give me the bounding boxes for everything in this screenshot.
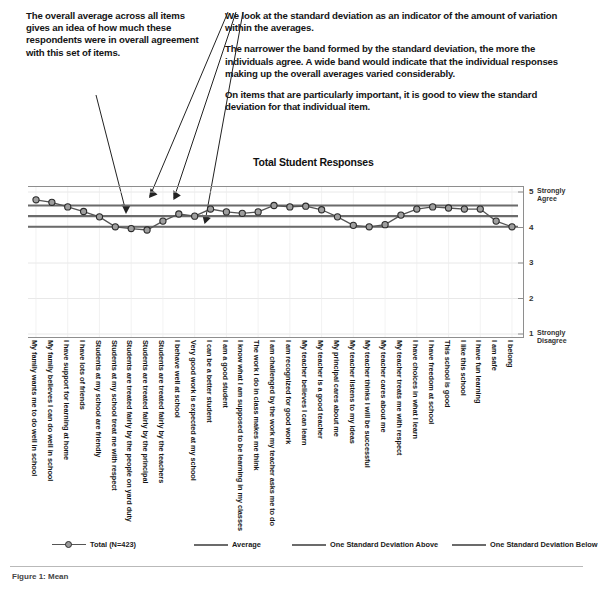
annotation-sd-paragraph-1: We look at the standard deviation as an …: [225, 10, 577, 34]
y-tick-label-2: 2: [529, 294, 533, 303]
x-axis-label: I can be a better student: [205, 340, 214, 423]
x-axis-label: I belong: [506, 340, 515, 368]
annotation-sd-paragraph-2: The narrower the band formed by the stan…: [225, 43, 577, 80]
chart-svg: [28, 186, 524, 338]
x-axis-label: I am challenged by the work my teacher a…: [268, 340, 277, 526]
y-axis-anchor-bottom: StronglyDisagree: [537, 329, 589, 344]
x-axis-label: My teacher listens to my ideas: [348, 340, 357, 444]
legend-label: Total (N=423): [90, 540, 136, 549]
x-axis-label: My family believes I can do well in scho…: [46, 340, 55, 481]
chart-title: Total Student Responses: [253, 156, 374, 168]
x-axis-label: My teacher treats me with respect: [395, 340, 404, 455]
legend-swatch: [194, 540, 228, 549]
legend-item: One Standard Deviation Below: [452, 540, 598, 549]
x-axis-label: This school is good: [443, 340, 452, 408]
x-axis-label: I behave well at school: [173, 340, 182, 418]
chart-legend: Total (N=423)AverageOne Standard Deviati…: [52, 540, 552, 556]
y-tick-label-1: 1: [529, 329, 533, 338]
x-axis-label: I have choices in what I learn: [411, 340, 420, 439]
x-axis-label: I have freedom at school: [427, 340, 436, 424]
x-axis-label: I am a good student: [221, 340, 230, 408]
x-axis-label: I have lots of friends: [78, 340, 87, 410]
x-axis-label: My teacher believes I can learn: [300, 340, 309, 445]
y-tick-label-3: 3: [529, 258, 533, 267]
x-axis-label: My teacher cares about me: [379, 340, 388, 432]
legend-label: One Standard Deviation Above: [330, 540, 438, 549]
y-tick-label-5: 5: [529, 187, 533, 196]
legend-item: Total (N=423): [52, 540, 136, 549]
page-divider: [10, 566, 583, 567]
annotation-sd-paragraph-3: On items that are particularly important…: [225, 89, 577, 113]
x-axis-label: Very good work is expected at my school: [189, 340, 198, 481]
y-axis-anchor-top: StronglyAgree: [537, 187, 589, 202]
legend-swatch: [292, 540, 326, 549]
x-axis-label: My family wants me to do well in school: [30, 340, 39, 476]
x-axis-label: My principal cares about me: [332, 340, 341, 437]
chart-x-axis-labels: My family wants me to do well in schoolM…: [28, 340, 528, 525]
x-axis-label: I like this school: [459, 340, 468, 396]
x-axis-label: I am recognized for good work: [284, 340, 293, 444]
x-axis-label: I am safe: [490, 340, 499, 371]
legend-item: Average: [194, 540, 261, 549]
chart-plot-area: [28, 186, 524, 338]
x-axis-label: Students at my school treat me with resp…: [110, 340, 119, 491]
x-axis-label: I have support for learning at home: [62, 340, 71, 460]
legend-label: One Standard Deviation Below: [490, 540, 598, 549]
annotation-standard-deviation: We look at the standard deviation as an …: [225, 10, 577, 113]
x-axis-label: My teacher is a good teacher: [316, 340, 325, 439]
x-axis-label: Students are treated fairly by the teach…: [157, 340, 166, 483]
legend-item: One Standard Deviation Above: [292, 540, 438, 549]
x-axis-label: Students are treated fairly by the peopl…: [125, 340, 134, 522]
legend-swatch: [452, 540, 486, 549]
x-axis-label: I know what I am supposed to be learning…: [236, 340, 245, 531]
legend-swatch: [52, 540, 86, 549]
y-tick-label-4: 4: [529, 223, 533, 232]
x-axis-label: My teacher thinks I will be successful: [363, 340, 372, 468]
x-axis-label: I have fun learning: [474, 340, 483, 403]
x-axis-label: The work I do in class makes me think: [252, 340, 261, 471]
x-axis-label: Students at my school are friendly: [94, 340, 103, 457]
page-footer-note: Figure 1: Mean: [12, 572, 68, 581]
legend-label: Average: [232, 540, 261, 549]
x-axis-label: Students are treated fairly by the princ…: [141, 340, 150, 483]
annotation-overall-average: The overall average across all items giv…: [26, 10, 208, 59]
